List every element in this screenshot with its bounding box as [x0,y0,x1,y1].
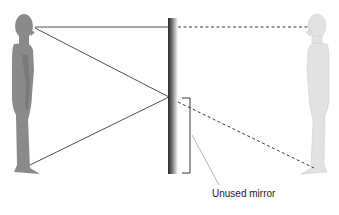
light-rays [30,27,169,165]
unused-mirror-label: Unused mirror [212,188,275,199]
mirror-diagram [0,0,339,215]
label-leader-line [192,135,219,185]
person-figure [12,14,40,174]
unused-mirror-bracket [182,98,190,173]
virtual-image-figure [301,14,329,174]
mirror [168,18,178,174]
